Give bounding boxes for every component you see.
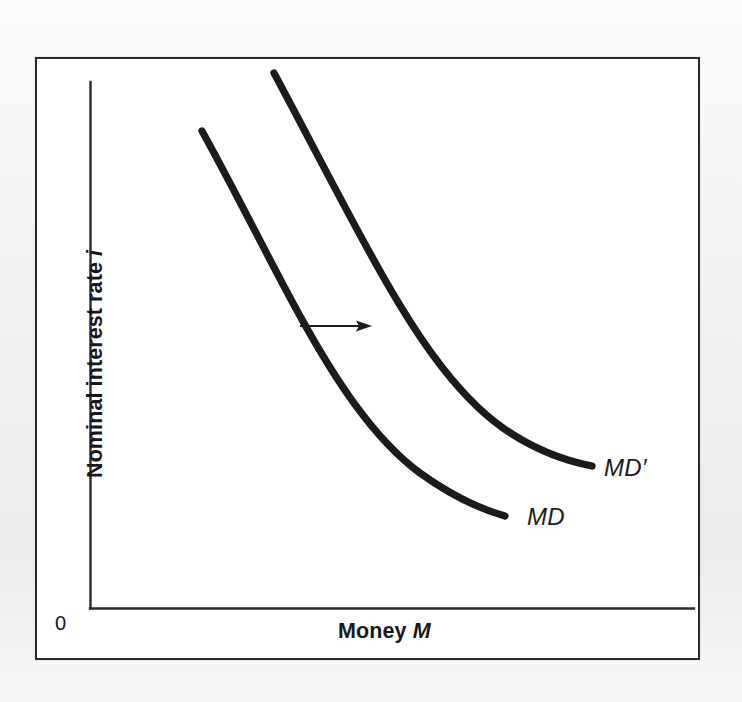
x-axis-label-symbol: M xyxy=(413,619,431,643)
x-axis-label: Money M xyxy=(338,619,431,644)
y-axis-label-symbol: i xyxy=(83,250,107,256)
y-axis-label: Nominal interest rate i xyxy=(83,250,108,478)
figure-page: Nominal interest rate i Money M 0 MD′ MD xyxy=(0,0,742,702)
x-axis-label-text: Money xyxy=(338,619,413,643)
curve-label-md-prime: MD′ xyxy=(604,454,647,482)
figure-frame-box xyxy=(35,57,700,660)
curve-label-md: MD xyxy=(527,503,565,531)
origin-label: 0 xyxy=(55,612,66,635)
y-axis-label-text: Nominal interest rate xyxy=(83,256,107,478)
